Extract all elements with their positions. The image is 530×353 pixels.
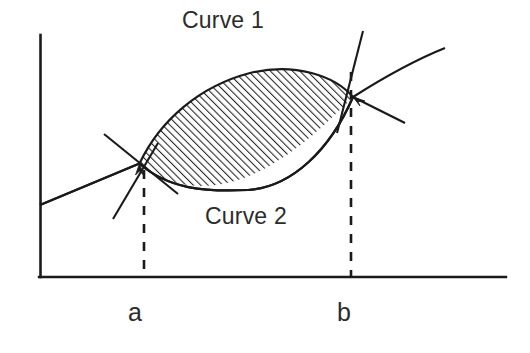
shaded-region-fill: [140, 69, 354, 186]
intersection-marker-b: [353, 97, 365, 106]
tangent-line-a-ascending: [113, 143, 158, 219]
curve-1-label: Curve 1: [182, 9, 264, 32]
curve-2-extension-path: [353, 48, 445, 97]
shaded-region-group: [140, 69, 354, 186]
x-tick-label-a: a: [128, 300, 142, 325]
figure-canvas: Curve 1 Curve 2 a b: [0, 0, 530, 353]
tangent-line-b-steep: [337, 31, 363, 133]
curve-figure-svg: [0, 0, 530, 353]
x-tick-label-b: b: [337, 300, 351, 325]
curve-2-label: Curve 2: [205, 205, 287, 228]
